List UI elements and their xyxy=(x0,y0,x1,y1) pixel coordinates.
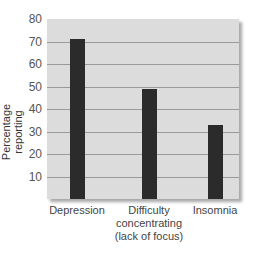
bar xyxy=(208,125,223,199)
y-tick-label: 80 xyxy=(12,13,42,25)
bar xyxy=(70,39,85,199)
plot-area xyxy=(47,19,239,199)
y-tick-label: 20 xyxy=(12,148,42,160)
y-tick-label: 40 xyxy=(12,103,42,115)
y-tick-label: 70 xyxy=(12,36,42,48)
x-tick-label: Insomnia xyxy=(170,204,256,217)
y-tick-label: 10 xyxy=(12,171,42,183)
y-tick-label: 60 xyxy=(12,58,42,70)
y-tick-label: 50 xyxy=(12,81,42,93)
y-tick-label: 30 xyxy=(12,126,42,138)
bar xyxy=(142,89,157,199)
